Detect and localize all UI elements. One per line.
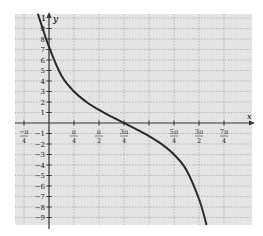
svg-text:4: 4: [222, 137, 226, 145]
svg-text:7π: 7π: [220, 128, 229, 136]
svg-text:−π: −π: [19, 128, 29, 136]
svg-text:4: 4: [22, 137, 26, 145]
svg-text:4: 4: [122, 137, 126, 145]
y-axis-label: y: [52, 14, 59, 24]
svg-text:−6: −6: [35, 183, 46, 191]
svg-text:2: 2: [41, 99, 45, 107]
svg-text:3: 3: [41, 88, 45, 96]
svg-text:5π: 5π: [170, 128, 179, 136]
svg-text:7: 7: [41, 46, 45, 54]
svg-text:−7: −7: [35, 193, 45, 201]
svg-text:−2: −2: [35, 141, 45, 149]
svg-text:6: 6: [41, 57, 46, 65]
svg-text:π: π: [72, 128, 77, 136]
svg-text:3π: 3π: [120, 128, 129, 136]
svg-text:−1: −1: [35, 130, 45, 138]
svg-text:4: 4: [41, 78, 46, 86]
svg-text:2: 2: [197, 137, 201, 145]
svg-text:3π: 3π: [195, 128, 204, 136]
x-axis-label: x: [247, 112, 252, 121]
svg-text:−4: −4: [35, 162, 46, 170]
svg-text:1: 1: [41, 109, 45, 117]
svg-text:−9: −9: [35, 214, 45, 222]
svg-text:π: π: [97, 128, 102, 136]
svg-text:−3: −3: [35, 151, 45, 159]
svg-text:4: 4: [72, 137, 76, 145]
plot-area: [15, 14, 252, 225]
svg-text:−5: −5: [35, 172, 45, 180]
function-graph: −π4π4π23π45π43π27π4 987654321−1−2−3−4−5−…: [0, 0, 263, 236]
svg-text:5: 5: [41, 67, 45, 75]
svg-text:−8: −8: [35, 204, 45, 212]
y-top-tick-label: 1: [41, 14, 46, 23]
svg-text:4: 4: [172, 137, 176, 145]
svg-text:2: 2: [97, 137, 101, 145]
